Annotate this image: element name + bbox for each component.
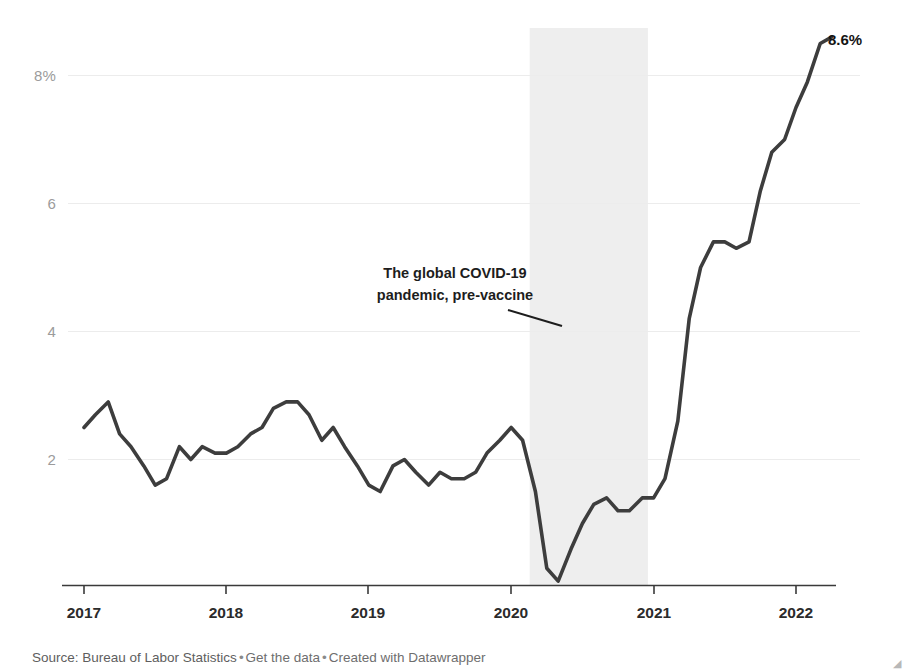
corner-mark-icon: ◢ bbox=[893, 657, 905, 669]
footer-separator-2: • bbox=[320, 650, 329, 665]
x-axis-ticks bbox=[84, 585, 796, 594]
footer-separator-1: • bbox=[237, 650, 246, 665]
y-tick-label-6: 6 bbox=[10, 195, 56, 212]
chart-container: 8% 6 4 2 2017 2018 2019 2020 2021 2022 T… bbox=[0, 0, 911, 670]
datawrapper-credit-link[interactable]: Created with Datawrapper bbox=[329, 650, 486, 665]
x-tick-label-2020: 2020 bbox=[476, 604, 546, 622]
x-tick-label-2022: 2022 bbox=[761, 604, 831, 622]
x-tick-label-2018: 2018 bbox=[191, 604, 261, 622]
series-line-cpi bbox=[84, 37, 832, 581]
x-tick-label-2019: 2019 bbox=[333, 604, 403, 622]
chart-plot-area bbox=[0, 0, 911, 670]
get-the-data-link[interactable]: Get the data bbox=[246, 650, 320, 665]
annotation-line-2: pandemic, pre-vaccine bbox=[330, 284, 580, 306]
annotation-line-1: The global COVID-19 bbox=[330, 262, 580, 284]
end-value-label: 8.6% bbox=[828, 31, 862, 48]
y-tick-label-8: 8% bbox=[10, 67, 56, 84]
footer-source: Source: Bureau of Labor Statistics bbox=[32, 650, 237, 665]
x-tick-label-2021: 2021 bbox=[619, 604, 689, 622]
pandemic-highlight-band bbox=[530, 28, 648, 585]
y-tick-label-4: 4 bbox=[10, 323, 56, 340]
chart-footer: Source: Bureau of Labor Statistics•Get t… bbox=[32, 650, 485, 665]
x-axis bbox=[62, 585, 836, 594]
x-tick-label-2017: 2017 bbox=[49, 604, 119, 622]
y-tick-label-2: 2 bbox=[10, 451, 56, 468]
